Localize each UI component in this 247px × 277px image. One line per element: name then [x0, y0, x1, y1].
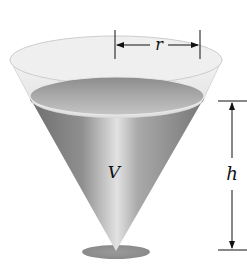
- liquid-surface: [30, 77, 204, 115]
- cone-tank-diagram: r h V: [0, 0, 247, 277]
- volume-label: V: [108, 162, 122, 182]
- radius-label: r: [155, 35, 164, 54]
- height-label: h: [226, 163, 238, 184]
